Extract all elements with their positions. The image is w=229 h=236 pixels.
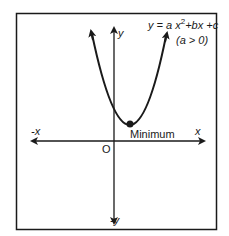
y-axis-label: y <box>118 28 124 39</box>
parabola-right-arrow <box>165 33 167 42</box>
neg-x-axis-label: -x <box>31 126 40 137</box>
equation-suffix: +bx +c <box>185 19 218 31</box>
x-axis-label: x <box>195 126 201 137</box>
equation-label: y = a x2+bx +c <box>148 18 218 31</box>
parabola-left-arrow <box>91 31 93 40</box>
origin-label: O <box>102 144 111 155</box>
condition-label: (a > 0) <box>176 35 208 46</box>
minimum-point <box>127 121 134 128</box>
equation-prefix: y = a x <box>148 19 181 31</box>
minimum-label: Minimum <box>130 129 175 140</box>
neg-y-axis-label: -y <box>110 215 119 226</box>
parabola-curve <box>92 34 166 125</box>
